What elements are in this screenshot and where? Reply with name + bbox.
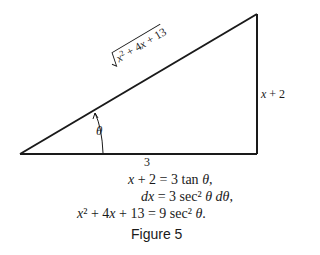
equation-1: x + 2 = 3 tan θ, bbox=[128, 172, 213, 188]
hypotenuse-label: x2 + 4x + 13 bbox=[107, 23, 169, 67]
opposite-label: x + 2 bbox=[260, 87, 285, 101]
hypotenuse-line bbox=[20, 14, 257, 154]
angle-label: θ bbox=[96, 123, 103, 138]
adjacent-label: 3 bbox=[144, 155, 150, 169]
figure-caption: Figure 5 bbox=[131, 226, 182, 242]
equation-3: x² + 4x + 13 = 9 sec² θ. bbox=[77, 206, 206, 222]
svg-text:x2 + 4x + 13: x2 + 4x + 13 bbox=[113, 24, 169, 64]
equation-2: dx = 3 sec² θ dθ, bbox=[141, 189, 233, 205]
triangle bbox=[20, 14, 257, 154]
